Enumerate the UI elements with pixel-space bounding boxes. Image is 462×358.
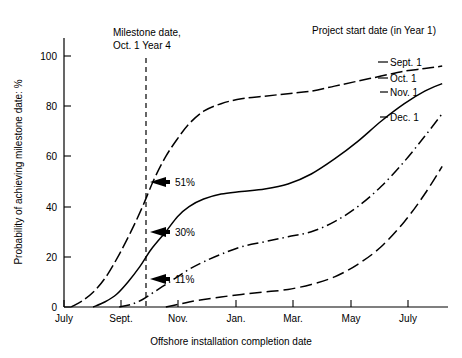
milestone-reference-group: Milestone date, Oct. 1 Year 4 bbox=[113, 27, 181, 307]
x-tick-label-2: Nov. bbox=[168, 313, 188, 324]
series-curve-sept-1 bbox=[71, 66, 442, 307]
annotation-label-30: 30% bbox=[175, 227, 195, 238]
arrow-left-icon-11 bbox=[150, 274, 166, 284]
chart-figure: 100 80 60 40 20 0 July Sept. Nov. Jan. M… bbox=[0, 0, 462, 358]
annotation-label-11: 11% bbox=[175, 274, 194, 285]
legend-label-oct-1: Oct. 1 bbox=[390, 73, 417, 84]
annotations-group: 51% 30% 11% bbox=[150, 177, 195, 285]
y-axis-title: Probability of achieving milestone date:… bbox=[13, 79, 24, 264]
arrow-left-icon-51 bbox=[150, 177, 166, 187]
probability-s-curve-chart: 100 80 60 40 20 0 July Sept. Nov. Jan. M… bbox=[0, 0, 462, 358]
x-tick-label-1: Sept. bbox=[109, 313, 132, 324]
y-tick-label-40: 40 bbox=[46, 202, 58, 213]
x-tick-label-0: July bbox=[55, 313, 73, 324]
x-axis-title: Offshore installation completion date bbox=[150, 336, 312, 347]
annotation-11-percent: 11% bbox=[150, 274, 194, 285]
milestone-label-line1: Milestone date, bbox=[113, 27, 181, 38]
arrow-tail-11 bbox=[164, 277, 170, 281]
annotation-label-51: 51% bbox=[175, 177, 195, 188]
annotation-30-percent: 30% bbox=[150, 227, 195, 238]
milestone-label-line2: Oct. 1 Year 4 bbox=[113, 40, 171, 51]
series-curve-dec-1 bbox=[166, 166, 442, 307]
legend-label-nov-1: Nov. 1 bbox=[390, 87, 419, 98]
y-tick-label-100: 100 bbox=[40, 51, 57, 62]
legend-group: Project start date (in Year 1) Sept. 1 O… bbox=[312, 25, 436, 123]
legend-title: Project start date (in Year 1) bbox=[312, 25, 436, 36]
arrow-left-icon-30 bbox=[150, 227, 166, 237]
legend-label-dec-1: Dec. 1 bbox=[390, 112, 419, 123]
x-tick-label-3: Jan. bbox=[227, 313, 246, 324]
y-tick-label-0: 0 bbox=[51, 302, 57, 313]
series-curves-group bbox=[71, 66, 442, 307]
y-axis-ticks: 100 80 60 40 20 0 bbox=[40, 51, 71, 313]
y-tick-label-20: 20 bbox=[46, 252, 58, 263]
arrow-tail-51 bbox=[164, 180, 170, 184]
x-tick-label-6: July bbox=[399, 313, 417, 324]
x-tick-label-4: Mar. bbox=[283, 313, 302, 324]
arrow-tail-30 bbox=[164, 230, 170, 234]
y-tick-label-60: 60 bbox=[46, 151, 58, 162]
y-tick-label-80: 80 bbox=[46, 101, 58, 112]
x-tick-label-5: May bbox=[342, 313, 361, 324]
x-axis-ticks: July Sept. Nov. Jan. Mar. May July bbox=[55, 300, 417, 324]
legend-label-sept-1: Sept. 1 bbox=[390, 57, 422, 68]
annotation-51-percent: 51% bbox=[150, 177, 195, 188]
